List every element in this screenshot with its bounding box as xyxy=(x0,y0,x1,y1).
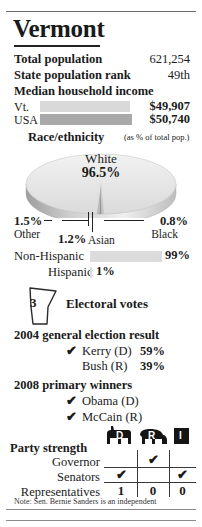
party-letter-i: I xyxy=(179,430,182,441)
primary-2008-heading: 2008 primary winners xyxy=(14,378,132,393)
pie-leader-tick-1 xyxy=(88,212,89,226)
pie-black-pct: 0.8% xyxy=(160,214,188,229)
income-bar-usa xyxy=(40,114,132,125)
candidate-kerry: Kerry (D) xyxy=(82,344,132,359)
pie-leader-asian xyxy=(62,220,88,221)
hispanic-value: 1% xyxy=(96,264,115,279)
hispanic-label: Hispanic xyxy=(48,265,92,280)
cell-senators-d: ✔ xyxy=(105,467,137,483)
party-icons-row: D R I xyxy=(104,424,196,448)
candidate-bush: Bush (R) xyxy=(82,359,128,374)
income-row-usa-label: USA xyxy=(14,113,38,128)
nonhispanic-label: Non-Hispanic xyxy=(14,249,84,264)
pie-leader-black xyxy=(104,220,144,221)
pie-asian-name: Asian xyxy=(88,234,115,246)
bottom-divider-2 xyxy=(6,520,196,521)
candidate-kerry-pct: 59% xyxy=(140,344,165,359)
total-population-value: 621,254 xyxy=(149,52,190,67)
winner-check-icon: ✔ xyxy=(66,393,77,409)
cell-governor-r: ✔ xyxy=(137,452,169,468)
pie-other-pct: 1.5% xyxy=(14,214,42,229)
pie-black-name: Black xyxy=(151,228,178,240)
hispanic-bar xyxy=(90,267,92,278)
income-bar-vt xyxy=(40,101,130,112)
election-2004-heading: 2004 general election result xyxy=(14,328,159,343)
total-population-label: Total population xyxy=(14,52,102,67)
electoral-votes-count: 3 xyxy=(30,295,37,311)
state-population-rank-label: State population rank xyxy=(14,68,131,83)
pie-other-name: Other xyxy=(14,228,40,240)
bottom-divider-1 xyxy=(6,509,196,510)
page-title: Vermont xyxy=(13,15,104,43)
pie-leader-other xyxy=(44,220,52,221)
party-letter-d: D xyxy=(116,430,123,441)
race-ethnicity-subheading: (as % of total pop.) xyxy=(124,132,189,142)
title-underline xyxy=(14,45,100,47)
nonhispanic-bar xyxy=(90,251,162,262)
income-row-usa-value: $50,740 xyxy=(149,112,190,127)
candidate-mccain: McCain (R) xyxy=(82,410,142,425)
party-row-senators-label: Senators xyxy=(4,470,100,485)
nonhispanic-value: 99% xyxy=(165,248,190,263)
party-letter-r: R xyxy=(148,430,155,441)
pie-leader-tick-2 xyxy=(92,212,93,232)
cell-senators-i: ✔ xyxy=(169,467,196,483)
pie-white-pct: 96.5% xyxy=(0,166,202,180)
median-household-income-label: Median household income xyxy=(14,84,154,99)
top-divider xyxy=(6,11,196,12)
vermont-state-outline-icon xyxy=(22,285,66,331)
pie-white-name: White xyxy=(85,151,117,166)
footnote: Note: Sen. Bernie Sanders is an independ… xyxy=(14,497,156,506)
pie-white-label: White 96.5% xyxy=(0,152,202,180)
pie-asian-pct: 1.2% xyxy=(58,232,86,247)
race-ethnicity-heading: Race/ethnicity xyxy=(28,130,104,145)
candidate-bush-pct: 39% xyxy=(140,359,165,374)
winner-check-icon: ✔ xyxy=(66,343,77,359)
state-population-rank-value: 49th xyxy=(168,68,190,83)
winner-check-icon: ✔ xyxy=(66,409,77,425)
candidate-obama: Obama (D) xyxy=(82,394,139,409)
electoral-votes-label: Electoral votes xyxy=(66,296,148,312)
party-row-governor-label: Governor xyxy=(4,455,100,470)
cell-representatives-i: 0 xyxy=(169,483,196,499)
party-strength-label: Party strength xyxy=(10,441,87,456)
